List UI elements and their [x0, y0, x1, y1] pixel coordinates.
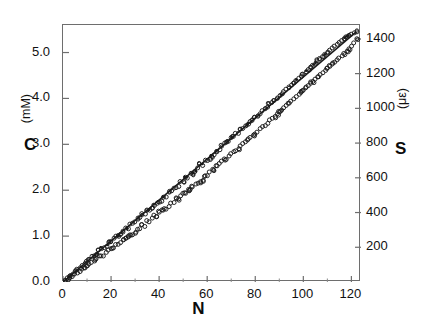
left-axis-tick-label: 1.0 [32, 228, 50, 241]
x-axis-title: N [0, 300, 425, 317]
left-axis-tick-label: 2.0 [32, 182, 50, 195]
right-axis-unit: (με) [396, 88, 409, 109]
right-axis-symbol: S [395, 140, 406, 157]
x-axis-tick-label: 120 [340, 287, 362, 300]
right-axis-tick-label: 1200 [366, 66, 395, 79]
right-axis-tick-label: 800 [366, 135, 388, 148]
figure: 0.01.02.03.04.05.0 200400600800100012001… [0, 0, 425, 326]
x-axis-tick-label: 40 [151, 287, 165, 300]
x-axis-title-text: N [192, 299, 204, 318]
left-axis-title: (mM) C [6, 92, 52, 162]
right-axis-tick-label: 600 [366, 170, 388, 183]
x-axis-tick-label: 0 [58, 287, 65, 300]
right-axis-title: (με) S [392, 88, 422, 174]
x-axis-tick-label: 20 [103, 287, 117, 300]
right-axis-tick-label: 1000 [366, 100, 395, 113]
left-axis-tick-label: 5.0 [32, 45, 50, 58]
left-axis-unit: (mM) [20, 94, 33, 123]
left-axis-symbol: C [24, 136, 36, 153]
right-axis-tick-label: 1400 [366, 31, 395, 44]
right-axis-tick-label: 400 [366, 205, 388, 218]
x-axis-tick-label: 100 [291, 287, 313, 300]
plot-area [62, 24, 360, 281]
left-axis-tick-label: 0.0 [32, 274, 50, 287]
x-axis-tick-label: 80 [247, 287, 261, 300]
plot-canvas [63, 25, 361, 282]
right-axis-tick-label: 200 [366, 239, 388, 252]
